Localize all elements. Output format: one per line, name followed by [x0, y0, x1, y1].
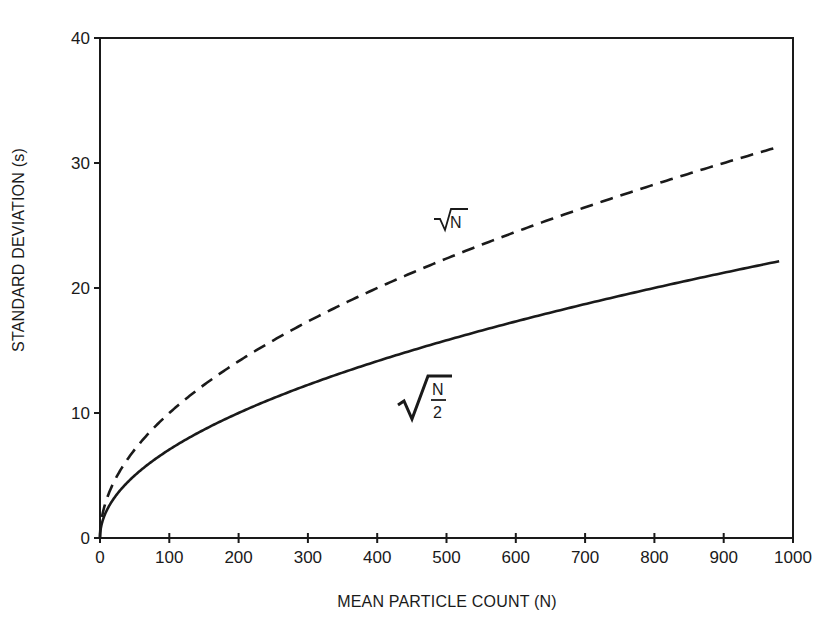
- x-tick-label: 700: [571, 548, 599, 567]
- y-tick-label: 40: [71, 29, 90, 48]
- annotation-sqrt-n-over-2: N 2: [398, 376, 452, 421]
- x-axis-title: MEAN PARTICLE COUNT (N): [337, 593, 557, 610]
- radical-sign-icon: [398, 376, 452, 419]
- chart: 010203040 010020030040050060070080090010…: [0, 0, 838, 643]
- y-tick-label: 20: [71, 279, 90, 298]
- x-tick-label: 900: [710, 548, 738, 567]
- x-tick-label: 400: [363, 548, 391, 567]
- x-tick-label: 1000: [774, 548, 812, 567]
- y-tick-label: 30: [71, 154, 90, 173]
- y-tick-label: 0: [81, 529, 90, 548]
- annotation-sqrt-n-radicand: N: [450, 214, 462, 231]
- x-tick-label: 200: [224, 548, 252, 567]
- x-tick-label: 600: [502, 548, 530, 567]
- y-axis-title: STANDARD DEVIATION (s): [10, 148, 27, 352]
- annotation-sqrt-n: N: [434, 209, 468, 231]
- x-tick-label: 100: [155, 548, 183, 567]
- y-axis-ticks: 010203040: [71, 29, 100, 548]
- annotation-numerator: N: [432, 381, 444, 398]
- x-tick-label: 800: [640, 548, 668, 567]
- x-tick-label: 300: [294, 548, 322, 567]
- x-tick-label: 0: [95, 548, 104, 567]
- annotation-denominator: 2: [433, 404, 442, 421]
- plot-frame: [100, 38, 793, 538]
- x-tick-label: 500: [432, 548, 460, 567]
- y-tick-label: 10: [71, 404, 90, 423]
